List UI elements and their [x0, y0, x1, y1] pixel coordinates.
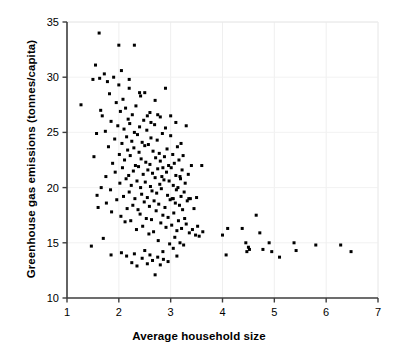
data-point — [130, 261, 133, 264]
data-point — [177, 219, 180, 222]
data-point — [154, 176, 157, 179]
data-point — [156, 167, 159, 170]
data-point — [177, 159, 180, 162]
data-point — [293, 241, 296, 244]
data-point — [314, 244, 317, 247]
data-point — [96, 194, 99, 197]
data-point — [270, 250, 273, 253]
data-point — [185, 124, 188, 127]
data-point — [136, 133, 139, 136]
data-point — [180, 227, 183, 230]
data-point — [152, 230, 155, 233]
data-point — [129, 154, 132, 157]
x-axis-title: Average household size — [0, 330, 398, 342]
data-point — [113, 138, 116, 141]
data-point — [176, 186, 179, 189]
data-point — [278, 256, 281, 259]
data-point — [143, 200, 146, 203]
data-point — [135, 179, 138, 182]
data-point — [148, 163, 151, 166]
data-point — [144, 161, 147, 164]
data-point — [124, 220, 127, 223]
data-point — [115, 198, 118, 201]
y-tick-label: 20 — [47, 182, 59, 194]
data-point — [148, 111, 151, 114]
data-point — [164, 87, 167, 90]
data-point — [162, 258, 165, 261]
data-point — [142, 119, 145, 122]
data-point — [121, 166, 124, 169]
data-point — [172, 197, 175, 200]
data-point — [159, 263, 162, 266]
data-point — [268, 241, 271, 244]
data-point — [108, 92, 111, 95]
y-axis-title-wrapper: Greenhouse gas emissions (tonnes/capita) — [21, 9, 39, 309]
data-point — [161, 166, 164, 169]
data-point — [109, 188, 112, 191]
data-point — [164, 126, 167, 129]
x-tick-label: 7 — [375, 306, 381, 318]
data-point — [156, 139, 159, 142]
data-point — [132, 146, 135, 149]
data-point — [143, 249, 146, 252]
data-point — [95, 132, 98, 135]
data-point — [125, 177, 128, 180]
data-point — [103, 72, 106, 75]
data-point — [104, 175, 107, 178]
data-point — [187, 173, 190, 176]
data-point — [156, 113, 159, 116]
data-point — [190, 164, 193, 167]
data-point — [98, 32, 101, 35]
data-point — [159, 160, 162, 163]
data-point — [125, 255, 128, 258]
data-point — [115, 101, 118, 104]
data-point — [161, 250, 164, 253]
data-point — [111, 162, 114, 165]
y-axis-title: Greenhouse gas emissions (tonnes/capita) — [25, 40, 37, 279]
data-point — [163, 155, 166, 158]
data-point — [94, 64, 97, 67]
data-point — [102, 237, 105, 240]
data-point — [173, 162, 176, 165]
data-point — [167, 216, 170, 219]
data-point — [195, 196, 198, 199]
data-point — [129, 219, 132, 222]
data-point — [154, 156, 157, 159]
data-point — [121, 98, 124, 101]
x-tick-label: 2 — [116, 306, 122, 318]
data-point — [128, 122, 131, 125]
data-point — [131, 113, 134, 116]
data-point — [100, 186, 103, 189]
gridlines-group — [67, 22, 378, 298]
data-point — [124, 107, 127, 110]
data-point — [118, 182, 121, 185]
data-point — [160, 175, 163, 178]
data-point — [135, 228, 138, 231]
data-point — [167, 164, 170, 167]
data-point — [137, 165, 140, 168]
data-point — [255, 214, 258, 217]
data-point — [151, 259, 154, 262]
data-point — [144, 181, 147, 184]
data-point — [162, 178, 165, 181]
data-point — [158, 152, 161, 155]
data-point — [261, 248, 264, 251]
data-point — [117, 44, 120, 47]
data-point — [165, 171, 168, 174]
y-tick-label: 35 — [47, 16, 59, 28]
data-point — [138, 151, 141, 154]
data-point — [134, 164, 137, 167]
x-tick-label: 1 — [64, 306, 70, 318]
data-point — [126, 149, 129, 152]
data-point — [138, 125, 141, 128]
data-point — [138, 91, 141, 94]
data-point — [295, 249, 298, 252]
data-point — [168, 242, 171, 245]
data-point — [122, 195, 125, 198]
data-point — [159, 221, 162, 224]
data-point — [148, 253, 151, 256]
data-point — [160, 187, 163, 190]
data-point — [196, 225, 199, 228]
x-tick-label: 4 — [219, 306, 225, 318]
data-point — [116, 124, 119, 127]
